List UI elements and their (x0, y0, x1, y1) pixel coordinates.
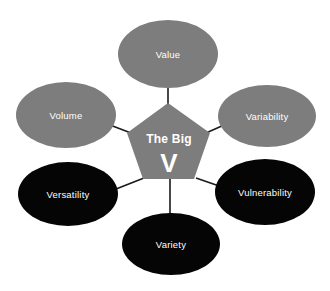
node-vulnerability-label: Vulnerability (238, 187, 292, 198)
node-variability[interactable]: Variability (218, 85, 316, 147)
node-versatility-label: Versatility (47, 189, 90, 200)
diagram-canvas: Value Variability Vulnerability Variety … (0, 0, 330, 291)
node-versatility[interactable]: Versatility (18, 162, 118, 226)
center-title-line1: The Big (146, 132, 191, 146)
node-variability-label: Variability (246, 111, 289, 122)
node-value[interactable]: Value (118, 20, 218, 88)
center-title-line2: V (160, 148, 178, 178)
connector-center-to-versatility (116, 178, 144, 189)
node-value-label: Value (156, 49, 181, 60)
node-variety-label: Variety (156, 239, 186, 250)
connector-center-to-volume (110, 125, 131, 133)
node-volume[interactable]: Volume (16, 82, 116, 148)
center-pentagon[interactable]: The Big V (127, 103, 210, 179)
node-vulnerability[interactable]: Vulnerability (215, 159, 315, 225)
node-variety[interactable]: Variety (122, 213, 220, 275)
node-volume-label: Volume (50, 110, 83, 121)
big-v-diagram: Value Variability Vulnerability Variety … (0, 0, 330, 291)
